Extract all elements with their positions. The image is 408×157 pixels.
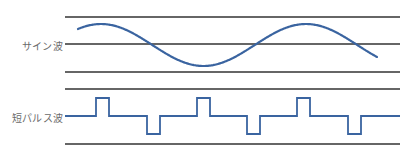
waveform-diagram <box>0 0 408 157</box>
sine-wave-curve <box>78 24 377 66</box>
pulse-wave-curve <box>65 98 400 134</box>
